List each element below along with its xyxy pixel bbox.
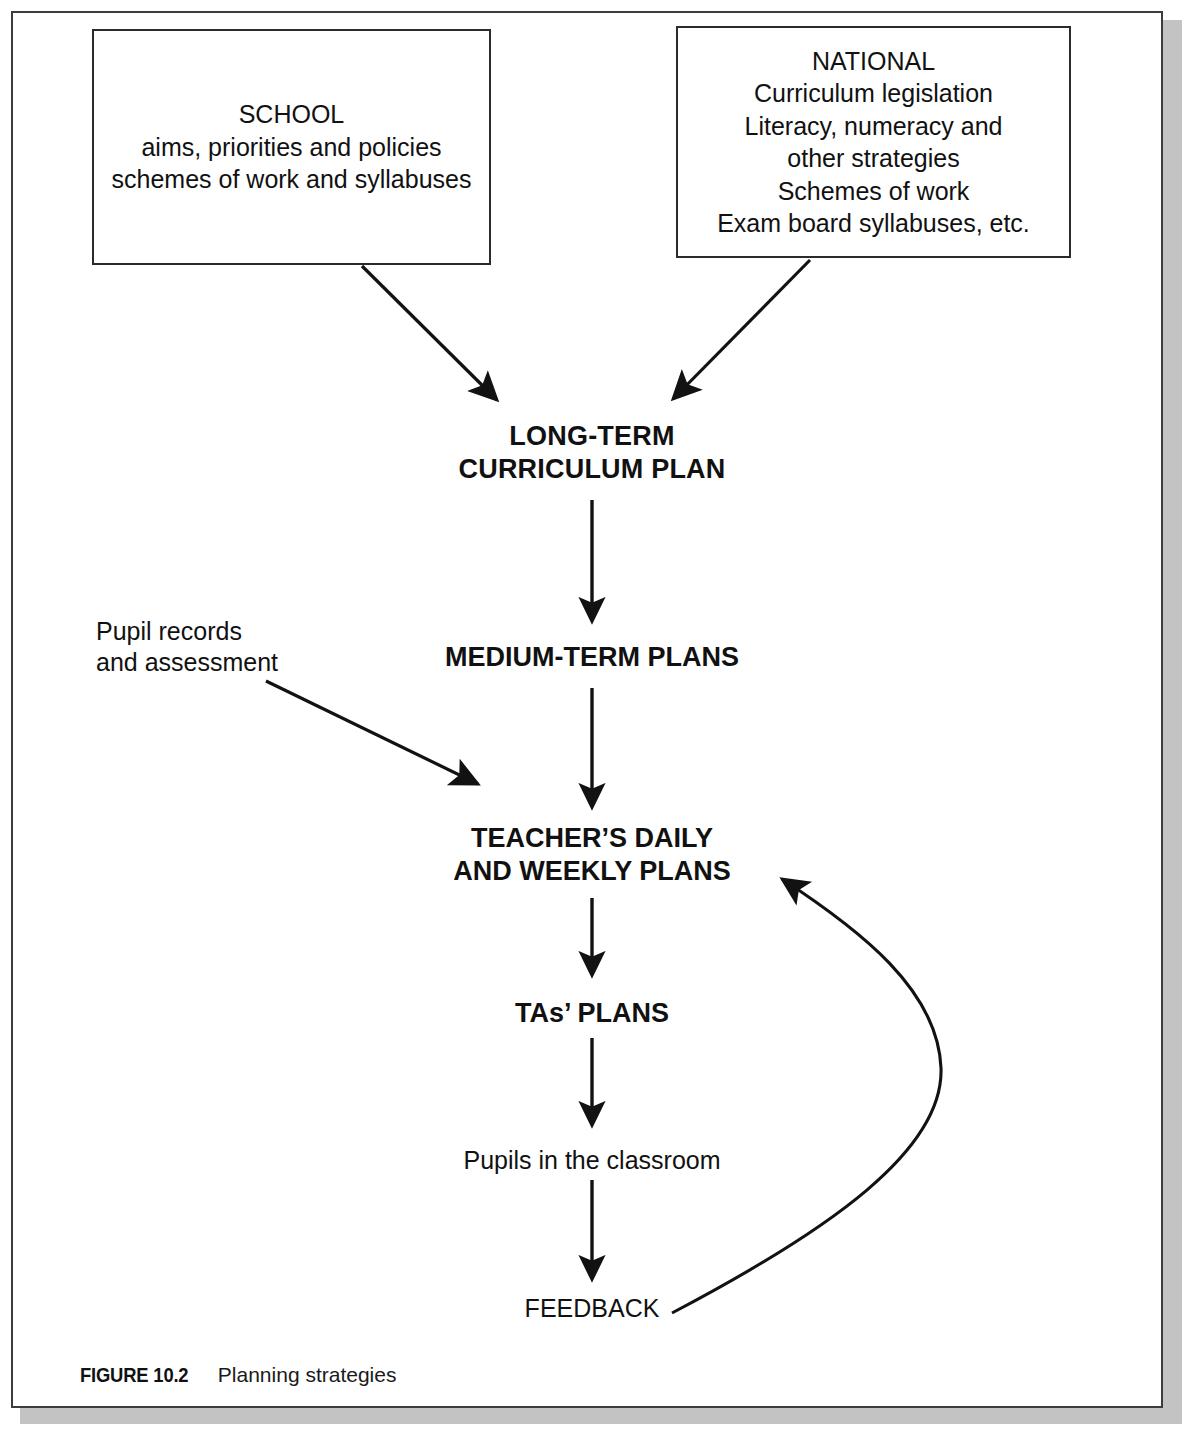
node-medium-term-plans: MEDIUM-TERM PLANS — [392, 641, 792, 674]
node-feedback: FEEDBACK — [442, 1293, 742, 1324]
node-long-term-curriculum-plan: LONG-TERM CURRICULUM PLAN — [392, 420, 792, 487]
node-teachers-daily-and-weekly-plans: TEACHER’S DAILY AND WEEKLY PLANS — [382, 822, 802, 889]
figure-page: SCHOOL aims, priorities and policies sch… — [0, 0, 1193, 1444]
figure-caption-text: Planning strategies — [218, 1363, 397, 1387]
node-pupil-records-and-assessment: Pupil records and assessment — [96, 616, 426, 678]
box-school-text: SCHOOL aims, priorities and policies sch… — [112, 98, 472, 196]
node-pupils-in-the-classroom: Pupils in the classroom — [392, 1145, 792, 1176]
figure-caption: FIGURE 10.2 Planning strategies — [80, 1363, 396, 1387]
box-national: NATIONAL Curriculum legislation Literacy… — [676, 26, 1071, 258]
box-national-text: NATIONAL Curriculum legislation Literacy… — [717, 45, 1030, 240]
box-school: SCHOOL aims, priorities and policies sch… — [92, 29, 491, 265]
figure-caption-label: FIGURE 10.2 — [80, 1364, 188, 1387]
node-tas-plans: TAs’ PLANS — [442, 997, 742, 1030]
